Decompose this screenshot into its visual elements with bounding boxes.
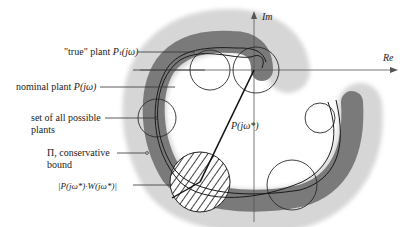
- pi-bound-label-line1: Π, conservative: [47, 147, 110, 159]
- nominal-plant-label: nominal plant P(jω): [16, 81, 96, 93]
- real-axis-label: Re: [383, 52, 394, 64]
- imaginary-axis-label: Im: [262, 11, 273, 23]
- real-axis-arrow-icon: [390, 67, 398, 73]
- plant-set-label-line2: plants: [31, 124, 55, 136]
- vector-label: P(jω*): [231, 120, 259, 132]
- true-plant-label: "true" plant Pₜ(jω): [64, 46, 138, 58]
- uncertainty-radius-label: |P(jω*)·W(jω*)|: [58, 180, 117, 192]
- plant-set-label-line1: set of all possible: [31, 112, 101, 124]
- pi-bound-label-line2: bound: [47, 159, 72, 171]
